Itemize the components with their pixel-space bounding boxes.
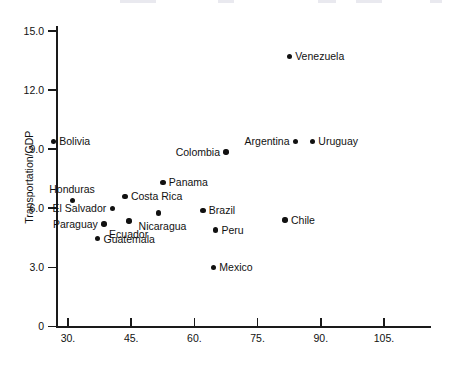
- y-tick: [48, 267, 57, 269]
- y-tick-label: 6.0: [2, 203, 44, 214]
- y-tick: [48, 30, 57, 32]
- scan-artifact: [120, 0, 156, 3]
- y-tick: [48, 148, 57, 150]
- x-tick: [130, 318, 132, 327]
- data-point: [95, 236, 100, 241]
- data-point: [101, 221, 106, 226]
- x-tick-label: 30.: [46, 333, 90, 344]
- data-point-label: Uruguay: [318, 136, 358, 147]
- scan-artifact: [430, 0, 442, 3]
- scan-artifact: [218, 0, 234, 3]
- x-tick: [194, 318, 196, 327]
- data-point-label: Honduras: [49, 184, 95, 195]
- scan-artifact: [356, 0, 382, 3]
- x-tick-label: 75.: [236, 333, 280, 344]
- data-point: [282, 217, 287, 222]
- x-tick: [320, 318, 322, 327]
- data-point-label: El Salvador: [53, 203, 107, 214]
- x-tick: [383, 318, 385, 327]
- x-tick-label: 90.: [299, 333, 343, 344]
- scan-artifact: [318, 0, 336, 3]
- y-tick-label: 9.0: [2, 144, 44, 155]
- data-point: [110, 206, 115, 211]
- data-point-label: Venezuela: [295, 51, 344, 62]
- data-point: [200, 208, 205, 213]
- data-point-label: Brazil: [209, 205, 235, 216]
- y-tick-label: 3.0: [2, 262, 44, 273]
- data-point: [51, 139, 56, 144]
- x-tick-label: 60.: [172, 333, 216, 344]
- x-tick: [257, 318, 259, 327]
- data-point-label: Costa Rica: [131, 191, 182, 202]
- data-point: [223, 149, 228, 154]
- data-point-label: Argentina: [245, 136, 290, 147]
- data-point-label: Paraguay: [53, 219, 98, 230]
- x-tick: [67, 318, 69, 327]
- y-tick-label: 15.0: [2, 26, 44, 37]
- y-tick: [48, 326, 57, 328]
- data-point-label: Colombia: [176, 147, 220, 158]
- scatter-plot: Transportation/GDP 03.06.09.012.015.0 30…: [0, 0, 450, 376]
- y-tick: [48, 89, 57, 91]
- data-point: [310, 139, 315, 144]
- y-axis-line: [56, 26, 58, 328]
- data-point-label: Peru: [221, 225, 243, 236]
- x-tick-label: 105.: [362, 333, 406, 344]
- data-point: [213, 227, 218, 232]
- y-axis-title: Transportation/GDP: [24, 92, 35, 262]
- data-point-label: Chile: [291, 215, 315, 226]
- data-point: [211, 265, 216, 270]
- data-point: [160, 180, 165, 185]
- data-point: [122, 194, 127, 199]
- data-point: [156, 210, 161, 215]
- data-point-label: Guatemala: [103, 234, 154, 245]
- data-point: [126, 218, 131, 223]
- data-point-label: Mexico: [219, 262, 252, 273]
- y-tick-label: 12.0: [2, 85, 44, 96]
- x-tick-label: 45.: [109, 333, 153, 344]
- data-point: [287, 54, 292, 59]
- data-point-label: Bolivia: [59, 136, 90, 147]
- data-point: [293, 139, 298, 144]
- x-axis-line: [56, 326, 431, 328]
- data-point-label: Panama: [169, 177, 208, 188]
- y-tick-label: 0: [2, 321, 44, 332]
